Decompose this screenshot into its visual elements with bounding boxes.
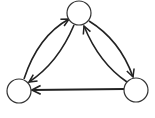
node-top bbox=[67, 1, 91, 25]
node-right bbox=[124, 78, 148, 102]
graph-diagram bbox=[0, 0, 155, 118]
graph-svg bbox=[0, 0, 155, 118]
node-left bbox=[7, 79, 31, 103]
edge-right-to-left bbox=[32, 89, 124, 90]
